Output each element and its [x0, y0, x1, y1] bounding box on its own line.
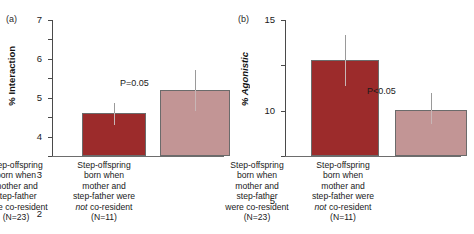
emphasis-not: not — [315, 202, 327, 212]
error-bar-upper — [114, 103, 115, 114]
y-tick-mark: 0 — [281, 156, 285, 157]
panel-b-x-axis-line — [285, 156, 461, 157]
error-bar-lower — [114, 113, 115, 125]
panel-a-x-axis-line — [52, 156, 224, 157]
y-tick-label: 6 — [37, 54, 42, 64]
error-bar-lower — [345, 60, 346, 86]
error-bar-upper — [195, 70, 196, 90]
panel-a-bars — [52, 20, 224, 156]
category-label-line: not co-resident — [277, 202, 409, 212]
error-bar-lower — [195, 90, 196, 111]
panel-b-pvalue-annotation: P<0.05 — [367, 86, 396, 96]
panel-b-plot-area: 051015 P<0.05 — [285, 20, 461, 157]
category-label-line: mother and — [277, 181, 409, 191]
panel-a-pvalue-annotation: P=0.05 — [120, 78, 149, 88]
y-tick-label: 10 — [264, 106, 275, 116]
category-label-line: step-father were — [38, 191, 170, 201]
panel-a-y-axis-title: % Interaction — [6, 46, 17, 106]
panel-b: (b) % Agonistic 051015 P<0.05 Step-offsp… — [237, 0, 474, 234]
panel-a-plot-area: 01234567 P=0.05 — [52, 20, 224, 157]
error-bar-upper — [345, 35, 346, 59]
panel-b-y-axis-title: % Agonistic — [239, 52, 250, 106]
category-label-line: Step-offspring — [38, 160, 170, 170]
bar-group — [160, 19, 230, 156]
x-axis-category-label: Step-offspringborn whenmother andstep-fa… — [277, 160, 409, 222]
panel-b-letter: (b) — [238, 14, 249, 24]
category-label-line: born when — [277, 170, 409, 180]
error-bar-lower — [431, 110, 432, 125]
emphasis-not: not — [76, 202, 88, 212]
category-label-line: mother and — [38, 181, 170, 191]
bar-group — [395, 19, 467, 156]
y-tick-label: 5 — [37, 93, 42, 103]
y-tick-mark: 0 — [48, 156, 52, 157]
panel-a-letter: (a) — [6, 14, 17, 24]
category-label-line: (N=11) — [38, 212, 170, 222]
category-label-line: (N=11) — [277, 212, 409, 222]
error-bar-upper — [431, 93, 432, 109]
category-label-line: not co-resident — [38, 202, 170, 212]
category-label-line: born when — [38, 170, 170, 180]
y-tick-label: 15 — [264, 15, 275, 25]
x-axis-category-label: Step-offspringborn whenmother andstep-fa… — [38, 160, 170, 222]
category-label-line: Step-offspring — [277, 160, 409, 170]
y-tick-label: 4 — [37, 132, 42, 142]
figure-two-panel-bar-charts: (a) % Interaction 01234567 P=0.05 Step-o… — [0, 0, 474, 234]
category-label-line: step-father were — [277, 191, 409, 201]
y-tick-label: 7 — [37, 15, 42, 25]
